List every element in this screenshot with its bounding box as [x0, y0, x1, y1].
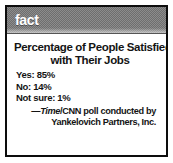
attribution-source-name: Time: [40, 106, 60, 116]
fact-body: Percentage of People Satisfied with Thei…: [7, 34, 166, 133]
fact-title-line-1: Percentage of People Satisfied: [14, 41, 168, 53]
fact-header-band: fact: [7, 7, 166, 34]
list-item: Yes: 85%: [14, 69, 160, 81]
attribution-line-2: Yankelovich Partners, Inc.: [14, 117, 156, 129]
list-item: No: 14%: [14, 81, 160, 93]
source-attribution: —Time/CNN poll conducted by Yankelovich …: [14, 106, 160, 129]
fact-box: fact Percentage of People Satisfied with…: [5, 5, 168, 157]
attribution-line-1-rest: /CNN poll conducted by: [60, 106, 156, 116]
fact-title: Percentage of People Satisfied with Thei…: [14, 41, 160, 66]
poll-results-list: Yes: 85% No: 14% Not sure: 1%: [14, 69, 160, 104]
list-item: Not sure: 1%: [14, 92, 160, 104]
fact-title-line-2: with Their Jobs: [14, 54, 160, 67]
attribution-dash: —: [31, 106, 40, 116]
fact-header-label: fact: [15, 13, 39, 27]
